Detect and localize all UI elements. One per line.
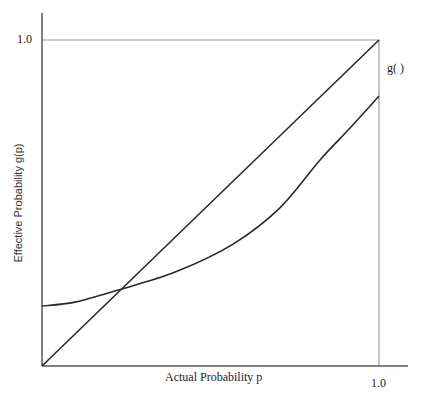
identity-line <box>42 40 379 366</box>
x-tick-label: 1.0 <box>371 376 386 391</box>
chart: 1.0 1.0 g( ) Actual Probability p Effect… <box>0 0 425 401</box>
x-axis-label: Actual Probability p <box>165 370 262 385</box>
g-curve <box>42 96 379 306</box>
y-tick-label: 1.0 <box>17 32 32 47</box>
series-group <box>42 40 379 366</box>
y-axis-label: Effective Probability g(p) <box>12 133 24 273</box>
curve-label: g( ) <box>387 61 404 76</box>
plot-area <box>0 0 425 401</box>
